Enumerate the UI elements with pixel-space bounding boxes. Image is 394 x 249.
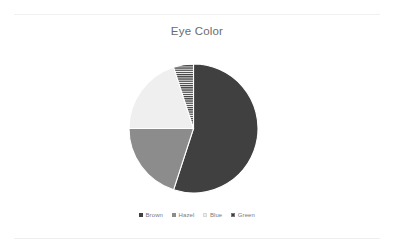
legend-marker-green-icon (231, 213, 235, 217)
legend-label-hazel: Hazel (179, 212, 195, 218)
legend-label-blue: Blue (210, 212, 222, 218)
legend-marker-brown-icon (139, 213, 143, 217)
legend-marker-hazel-icon (172, 213, 176, 217)
top-divider (14, 14, 380, 15)
chart-screenshot: Eye Color Brown Hazel (0, 0, 394, 249)
legend-item-green[interactable]: Green (231, 212, 255, 218)
legend-label-green: Green (238, 212, 255, 218)
pie-chart (128, 63, 259, 194)
legend-marker-blue-icon (203, 213, 207, 217)
legend-item-brown[interactable]: Brown (139, 212, 163, 218)
bottom-divider (14, 238, 380, 239)
legend-label-brown: Brown (146, 212, 164, 218)
chart-title: Eye Color (0, 25, 394, 37)
chart-legend: Brown Hazel Blue Green (0, 212, 394, 218)
pie-chart-svg (128, 63, 259, 194)
legend-item-hazel[interactable]: Hazel (172, 212, 194, 218)
legend-item-blue[interactable]: Blue (203, 212, 222, 218)
